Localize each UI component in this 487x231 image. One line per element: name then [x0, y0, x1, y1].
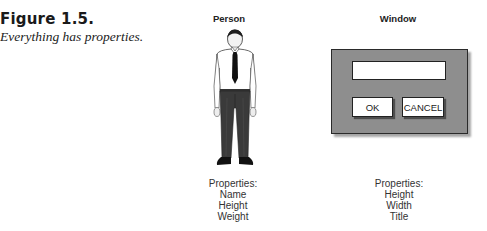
person-properties: Properties: Name Height Weight: [183, 178, 283, 222]
figure-caption: Everything has properties.: [0, 29, 143, 45]
window-text-field: [352, 61, 446, 80]
window-properties-heading: Properties:: [349, 178, 449, 189]
ok-button: OK: [352, 97, 393, 117]
window-property: Height: [349, 189, 449, 200]
window-property: Width: [349, 200, 449, 211]
window-properties: Properties: Height Width Title: [349, 178, 449, 222]
figure-label: Figure 1.5.: [0, 10, 94, 28]
person-property: Name: [183, 189, 283, 200]
person-properties-heading: Properties:: [183, 178, 283, 189]
person-illustration: [205, 28, 265, 170]
window-title: Window: [348, 13, 448, 24]
window-property: Title: [349, 211, 449, 222]
person-property: Weight: [183, 211, 283, 222]
cancel-button: CANCEL: [402, 97, 444, 117]
person-property: Height: [183, 200, 283, 211]
person-title: Person: [179, 13, 279, 24]
